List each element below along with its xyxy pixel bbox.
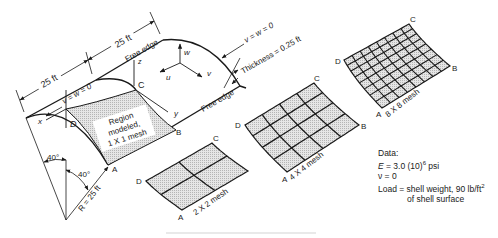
back-arc: [96, 79, 136, 90]
axis-z-label: z: [137, 58, 142, 65]
mesh-corner-A: A: [282, 175, 288, 184]
corner-B: B: [176, 128, 181, 137]
axis-v-label: v: [207, 69, 212, 78]
axis-u-label: u: [166, 73, 171, 82]
data-load-2: of shell surface: [378, 194, 485, 204]
mesh-panel-2x2: 2 X 2 meshDCA: [136, 134, 248, 222]
mesh-corner-D: D: [235, 121, 241, 130]
mesh-surface: [245, 83, 359, 172]
mesh-corner-A: A: [178, 213, 184, 222]
corner-A: A: [112, 165, 118, 174]
mesh-corner-D: D: [136, 177, 142, 186]
bc-right-leader: [222, 44, 244, 58]
mesh-corner-D: D: [335, 57, 341, 66]
corner-D: D: [70, 119, 77, 129]
corner-C: C: [138, 80, 145, 90]
radius-label: R = 25 ft: [76, 183, 102, 213]
mesh-surface: [146, 143, 248, 210]
axis-w-label: w: [184, 48, 191, 57]
data-load: Load = shell weight, 90 lb/ft2: [378, 181, 485, 194]
mesh-panel-4x4: 4 X 4 meshDCBA: [235, 74, 366, 184]
mesh-panel-8x8: 8 X 8 meshDCBA: [335, 15, 457, 119]
data-modulus: EE = 3.0 (10) = 3.0 (10)6 psi: [378, 158, 485, 171]
thickness-marker: [224, 58, 240, 88]
bc-right-label: v = w = 0: [243, 20, 276, 44]
mesh-corner-C: C: [213, 134, 219, 143]
mesh-corner-B: B: [452, 64, 457, 73]
mesh-corner-C: C: [410, 15, 416, 24]
caption-smudge: [166, 232, 316, 234]
data-poisson: ν = 0: [378, 171, 485, 181]
bc-left-label: v = w = 0: [61, 81, 94, 105]
mesh-corner-C: C: [314, 74, 320, 83]
axis-x-label: x: [37, 117, 43, 126]
axis-y-label: y: [173, 109, 179, 118]
right-end: [240, 86, 246, 88]
free-edge-bottom-label: Free edge: [200, 87, 237, 113]
data-title: Data:: [378, 148, 485, 158]
mesh-corner-B: B: [361, 122, 366, 131]
mesh-corner-A: A: [376, 110, 382, 119]
material-data: Data: EE = 3.0 (10) = 3.0 (10)6 psi ν = …: [378, 148, 485, 204]
angle-1-label: 40°: [47, 153, 59, 162]
angle-2-label: 40°: [78, 170, 90, 179]
